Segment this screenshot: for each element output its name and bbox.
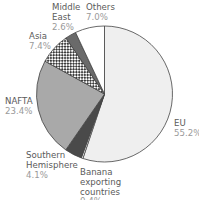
slice-label-text: East	[52, 12, 71, 22]
slice-value-label: 55.2%	[174, 128, 199, 138]
slice-label-text: NAFTA	[5, 96, 33, 106]
slice-label-text: countries	[80, 187, 120, 197]
slice-value-label: 7.0%	[86, 12, 108, 22]
slice-label-text: Asia	[29, 31, 47, 41]
slice-value-label: 4.1%	[26, 170, 48, 180]
slice-label-text: EU	[174, 118, 186, 128]
pie-chart: EU55.2%Bananaexportingcountries0.4%South…	[0, 0, 199, 200]
slice-label-asia: Asia7.4%	[29, 31, 51, 51]
slice-label-text: exporting	[80, 177, 121, 187]
slice-label-others: Others7.0%	[86, 2, 115, 22]
slice-value-label: 2.6%	[52, 22, 74, 32]
slice-label-text: Others	[86, 2, 115, 12]
slice-value-label: 0.4%	[80, 196, 102, 200]
slice-label-nafta: NAFTA23.4%	[5, 96, 33, 116]
slice-value-label: 7.4%	[29, 41, 51, 51]
slice-label-southern-hemisphere: SouthernHemisphere4.1%	[26, 150, 78, 180]
slice-label-text: Southern	[26, 150, 65, 160]
slice-label-text: Middle	[52, 2, 80, 12]
slice-label-text: Hemisphere	[26, 160, 78, 170]
slice-label-eu: EU55.2%	[174, 118, 199, 138]
slice-label-middle-east: MiddleEast2.6%	[52, 2, 80, 32]
slice-label-text: Banana	[80, 167, 113, 177]
slice-value-label: 23.4%	[5, 106, 32, 116]
slice-label-banana-exporting-countries: Bananaexportingcountries0.4%	[80, 167, 121, 200]
pie-slices	[37, 26, 173, 162]
